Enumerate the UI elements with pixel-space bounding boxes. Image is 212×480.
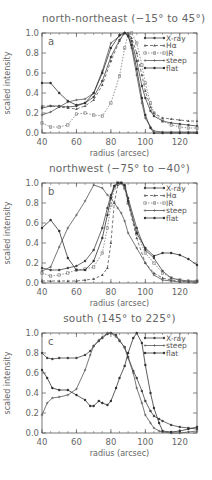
marker-filled-circle-icon bbox=[196, 426, 198, 428]
marker-filled-circle-icon bbox=[67, 357, 69, 359]
marker-plus-icon bbox=[163, 344, 166, 347]
marker-filled-circle-icon bbox=[58, 389, 60, 391]
y-axis-label: scaled intensity bbox=[3, 351, 12, 414]
legend: X-rayHαIRsteepflat bbox=[144, 184, 187, 223]
x-axis-label: radius (arcsec) bbox=[90, 449, 149, 458]
marker-filled-circle-icon bbox=[92, 92, 94, 94]
x-tick-label: 60 bbox=[71, 287, 82, 297]
marker-filled-circle-icon bbox=[67, 267, 69, 269]
marker-plus-icon bbox=[92, 184, 95, 187]
marker-plus-icon bbox=[41, 414, 44, 417]
chart-svg: 4060801001200.00.20.40.60.81.0radius (ar… bbox=[0, 300, 212, 460]
marker-filled-circle-icon bbox=[132, 337, 134, 339]
marker-filled-circle-icon bbox=[110, 400, 112, 402]
marker-filled-circle-icon bbox=[67, 100, 69, 102]
marker-filled-circle-icon bbox=[136, 68, 138, 70]
marker-filled-circle-icon bbox=[144, 37, 146, 39]
marker-filled-circle-icon bbox=[41, 267, 43, 269]
marker-filled-circle-icon bbox=[161, 252, 163, 254]
marker-plus-icon bbox=[58, 246, 61, 249]
marker-filled-circle-icon bbox=[110, 197, 112, 199]
marker-filled-circle-icon bbox=[75, 265, 77, 267]
marker-filled-circle-icon bbox=[123, 365, 125, 367]
marker-filled-circle-icon bbox=[153, 255, 155, 257]
legend-label: flat bbox=[166, 349, 178, 358]
marker-filled-circle-icon bbox=[49, 82, 51, 84]
marker-plus-icon bbox=[49, 266, 52, 269]
x-tick-label: 120 bbox=[172, 437, 188, 447]
marker-filled-circle-icon bbox=[89, 405, 91, 407]
x-tick-label: 120 bbox=[172, 287, 188, 297]
panel-letter: c bbox=[48, 336, 54, 347]
marker-filled-circle-icon bbox=[187, 258, 189, 260]
marker-filled-circle-icon bbox=[153, 415, 155, 417]
panel-letter: a bbox=[48, 36, 54, 47]
marker-filled-circle-icon bbox=[92, 405, 94, 407]
x-tick-label: 80 bbox=[105, 287, 116, 297]
y-tick-label: 0.6 bbox=[25, 368, 39, 378]
x-tick-label: 120 bbox=[172, 137, 188, 147]
marker-filled-circle-icon bbox=[46, 357, 48, 359]
panel-a: north-northeast (−15° to 45°) 4060801001… bbox=[0, 0, 212, 150]
marker-filled-circle-icon bbox=[196, 264, 198, 266]
x-tick-label: 40 bbox=[37, 287, 48, 297]
marker-filled-circle-icon bbox=[101, 80, 103, 82]
marker-filled-circle-icon bbox=[58, 92, 60, 94]
chart-svg: 4060801001200.00.20.40.60.81.0radius (ar… bbox=[0, 0, 212, 160]
marker-filled-circle-icon bbox=[118, 377, 120, 379]
marker-filled-circle-icon bbox=[163, 337, 165, 339]
marker-filled-circle-icon bbox=[163, 67, 165, 69]
marker-filled-circle-icon bbox=[127, 35, 129, 37]
marker-triangle-icon bbox=[106, 267, 109, 269]
marker-filled-circle-icon bbox=[41, 107, 43, 109]
marker-filled-circle-icon bbox=[110, 47, 112, 49]
marker-triangle-icon bbox=[135, 237, 138, 239]
marker-filled-circle-icon bbox=[187, 428, 189, 430]
marker-plus-icon bbox=[153, 344, 156, 347]
marker-filled-circle-icon bbox=[144, 217, 146, 219]
marker-filled-circle-icon bbox=[41, 227, 43, 229]
x-tick-label: 40 bbox=[37, 437, 48, 447]
marker-filled-circle-icon bbox=[153, 352, 155, 354]
marker-filled-circle-icon bbox=[144, 247, 146, 249]
marker-plus-icon bbox=[135, 387, 138, 390]
marker-filled-circle-icon bbox=[179, 430, 181, 432]
marker-filled-circle-icon bbox=[153, 337, 155, 339]
marker-filled-circle-icon bbox=[84, 399, 86, 401]
marker-filled-circle-icon bbox=[115, 387, 117, 389]
marker-filled-circle-icon bbox=[161, 420, 163, 422]
marker-filled-circle-icon bbox=[144, 97, 146, 99]
marker-filled-circle-icon bbox=[179, 123, 181, 125]
marker-filled-circle-icon bbox=[153, 187, 155, 189]
marker-plus-icon bbox=[84, 369, 87, 372]
x-tick-label: 100 bbox=[137, 287, 153, 297]
marker-filled-circle-icon bbox=[136, 377, 138, 379]
legend: X-rayHαIRsteepflat bbox=[144, 34, 187, 73]
marker-filled-circle-icon bbox=[41, 352, 43, 354]
marker-filled-circle-icon bbox=[161, 430, 163, 432]
marker-filled-circle-icon bbox=[153, 67, 155, 69]
legend-label: flat bbox=[166, 64, 178, 73]
marker-plus-icon bbox=[196, 430, 199, 433]
marker-plus-icon bbox=[144, 344, 147, 347]
y-tick-label: 0.2 bbox=[25, 408, 39, 418]
panel-c: south (145° to 225°) 4060801001200.00.20… bbox=[0, 300, 212, 450]
marker-filled-circle-icon bbox=[106, 214, 108, 216]
marker-filled-circle-icon bbox=[58, 230, 60, 232]
y-tick-label: 0.8 bbox=[25, 48, 39, 58]
panel-letter: b bbox=[48, 186, 54, 197]
marker-filled-circle-icon bbox=[153, 132, 155, 134]
marker-plus-icon bbox=[144, 59, 147, 62]
marker-filled-circle-icon bbox=[84, 354, 86, 356]
x-tick-label: 60 bbox=[71, 437, 82, 447]
y-tick-label: 0.0 bbox=[25, 128, 39, 138]
marker-filled-circle-icon bbox=[101, 227, 103, 229]
x-tick-label: 40 bbox=[37, 137, 48, 147]
marker-filled-circle-icon bbox=[113, 185, 115, 187]
marker-filled-circle-icon bbox=[141, 97, 143, 99]
x-tick-label: 80 bbox=[105, 137, 116, 147]
marker-filled-circle-icon bbox=[136, 60, 138, 62]
chart-svg: 4060801001200.00.20.40.60.81.0radius (ar… bbox=[0, 150, 212, 310]
marker-filled-circle-icon bbox=[144, 67, 146, 69]
legend-label: flat bbox=[166, 214, 178, 223]
